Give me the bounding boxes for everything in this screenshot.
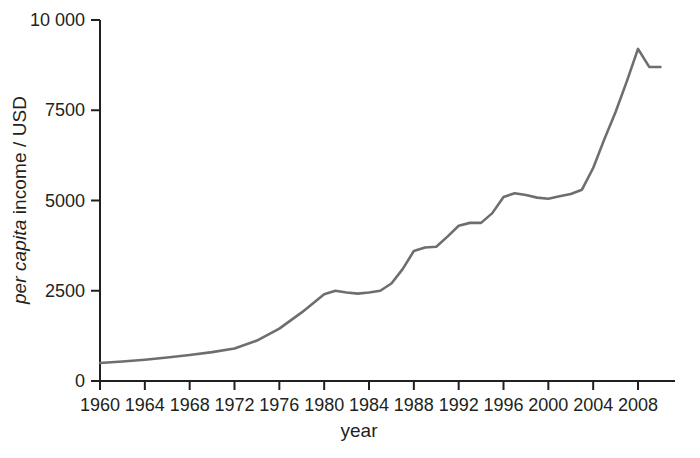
x-axis-ticks: 1960196419681972197619801984198819921996… bbox=[80, 381, 658, 415]
x-tick-label: 2000 bbox=[528, 395, 568, 415]
x-tick-label: 1980 bbox=[304, 395, 344, 415]
y-tick-label: 10 000 bbox=[30, 10, 85, 30]
y-axis-title-rest: income / USD bbox=[9, 96, 30, 220]
x-tick-label: 1996 bbox=[483, 395, 523, 415]
x-tick-label: 1964 bbox=[125, 395, 165, 415]
x-tick-label: 1984 bbox=[349, 395, 389, 415]
x-tick-label: 1972 bbox=[214, 395, 254, 415]
x-tick-label: 1960 bbox=[80, 395, 120, 415]
y-axis-ticks: 025005000750010 000 bbox=[30, 10, 100, 391]
chart-container: per capita income / USD 025005000750010 … bbox=[0, 0, 700, 458]
y-axis-title: per capita income / USD bbox=[2, 0, 38, 400]
y-tick-label: 5000 bbox=[45, 191, 85, 211]
y-axis-title-italic-part: per capita bbox=[9, 220, 30, 304]
line-chart-plot: 025005000750010 000 19601964196819721976… bbox=[0, 0, 700, 458]
x-axis-title-text: year bbox=[323, 420, 378, 442]
income-data-line bbox=[100, 49, 660, 363]
y-tick-label: 7500 bbox=[45, 100, 85, 120]
x-tick-label: 2004 bbox=[573, 395, 613, 415]
x-tick-label: 2008 bbox=[618, 395, 658, 415]
x-axis-title: year bbox=[0, 420, 700, 442]
x-tick-label: 1968 bbox=[170, 395, 210, 415]
y-tick-label: 2500 bbox=[45, 281, 85, 301]
x-tick-label: 1976 bbox=[259, 395, 299, 415]
x-tick-label: 1992 bbox=[439, 395, 479, 415]
x-tick-label: 1988 bbox=[394, 395, 434, 415]
y-tick-label: 0 bbox=[75, 371, 85, 391]
